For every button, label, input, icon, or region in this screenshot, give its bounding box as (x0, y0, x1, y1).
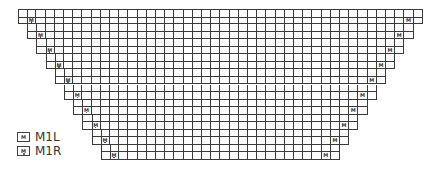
chart-cell (193, 145, 202, 153)
chart-cell (331, 152, 340, 160)
chart-cell (82, 92, 91, 100)
chart-cell (92, 17, 101, 25)
chart-cell (165, 39, 174, 47)
m1l-symbol-icon: M (395, 32, 403, 39)
chart-cell (220, 85, 229, 93)
chart-cell (193, 137, 202, 145)
chart-cell (368, 17, 377, 25)
chart-cell (331, 77, 340, 85)
chart-cell (331, 92, 340, 100)
chart-cell (266, 130, 275, 138)
chart-cell (358, 85, 367, 93)
chart-cell (294, 17, 303, 25)
chart-cell (156, 107, 165, 115)
chart-cell (230, 92, 239, 100)
chart-cell (257, 100, 266, 108)
chart-cell (211, 17, 220, 25)
chart-cell (92, 47, 101, 55)
chart-cell: M (92, 122, 101, 130)
chart-cell (220, 32, 229, 40)
chart-cell (248, 85, 257, 93)
chart-cell (211, 24, 220, 32)
chart-cell (276, 17, 285, 25)
chart-cell (358, 32, 367, 40)
chart-cell (239, 107, 248, 115)
chart-cell (285, 69, 294, 77)
chart-cell (110, 54, 119, 62)
chart-cell (331, 54, 340, 62)
chart-cell (101, 122, 110, 130)
chart-cell: M (322, 152, 331, 160)
chart-cell (101, 54, 110, 62)
chart-cell (358, 24, 367, 32)
chart-cell (322, 92, 331, 100)
chart-cell (101, 85, 110, 93)
chart-cell (349, 85, 358, 93)
chart-cell (165, 54, 174, 62)
chart-cell (257, 115, 266, 123)
chart-cell (156, 100, 165, 108)
chart-cell (248, 145, 257, 153)
m1l-symbol-icon: M (17, 132, 30, 142)
chart-cell: M (110, 152, 119, 160)
chart-cell (202, 107, 211, 115)
chart-cell (119, 137, 128, 145)
chart-cell (184, 107, 193, 115)
chart-cell (73, 24, 82, 32)
chart-cell (276, 130, 285, 138)
chart-cell (257, 77, 266, 85)
chart-cell (276, 32, 285, 40)
chart-cell (266, 69, 275, 77)
chart-cell (239, 62, 248, 70)
chart-cell (331, 130, 340, 138)
chart-cell (101, 130, 110, 138)
chart-cell (303, 92, 312, 100)
chart-cell (322, 24, 331, 32)
m1r-symbol-icon: M (27, 17, 35, 24)
chart-cell (349, 100, 358, 108)
chart-cell (138, 115, 147, 123)
chart-cell (276, 115, 285, 123)
chart-cell (230, 122, 239, 130)
chart-cell: M (73, 92, 82, 100)
chart-cell (73, 62, 82, 70)
chart-cell (156, 32, 165, 40)
chart-cell (73, 85, 82, 93)
chart-cell (312, 17, 321, 25)
chart-cell (276, 47, 285, 55)
chart-cell (82, 85, 91, 93)
chart-cell (230, 39, 239, 47)
chart-cell (202, 62, 211, 70)
chart-cell (101, 32, 110, 40)
chart-cell (257, 92, 266, 100)
chart-cell (156, 54, 165, 62)
chart-cell (174, 137, 183, 145)
chart-cell (303, 24, 312, 32)
chart-cell (138, 152, 147, 160)
chart-cell (266, 17, 275, 25)
chart-cell (368, 69, 377, 77)
chart-cell: M (36, 32, 45, 40)
chart-cell (285, 107, 294, 115)
chart-cell (92, 85, 101, 93)
chart-cell (248, 24, 257, 32)
chart-cell (128, 24, 137, 32)
chart-cell (303, 32, 312, 40)
chart-cell (101, 24, 110, 32)
chart-cell (377, 77, 386, 85)
chart-cell (193, 122, 202, 130)
chart-cell (239, 152, 248, 160)
chart-cell (147, 152, 156, 160)
chart-cell (147, 69, 156, 77)
chart-cell (156, 24, 165, 32)
m1r-symbol-icon: M (110, 152, 118, 159)
chart-cell (331, 32, 340, 40)
chart-cell (285, 17, 294, 25)
chart-cell (73, 17, 82, 25)
chart-cell (257, 122, 266, 130)
legend-label-m1r: M1R (35, 144, 61, 158)
chart-cell (312, 77, 321, 85)
chart-cell (340, 69, 349, 77)
chart-cell (349, 39, 358, 47)
chart-cell (119, 152, 128, 160)
